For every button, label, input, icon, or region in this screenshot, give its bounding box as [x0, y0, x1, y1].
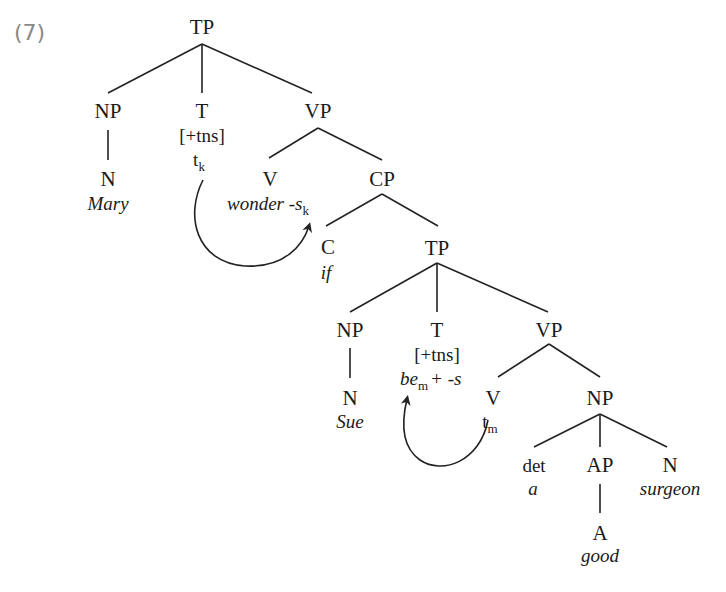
word-a: a [528, 478, 538, 499]
edge-vp2-v [498, 344, 549, 377]
edge-tp2-np [350, 263, 437, 312]
edge-cp-tp [382, 194, 438, 226]
edge-np3-n [600, 414, 667, 447]
example-number: (7) [14, 20, 45, 45]
edge-vp-v [269, 128, 318, 158]
feature-tns-lower: [+tns] [414, 344, 460, 365]
edge-tp-vp [202, 44, 312, 93]
node-det: det [522, 455, 546, 476]
trace-tk: tk [193, 149, 205, 174]
node-tp-lower: TP [425, 236, 450, 260]
node-cp: CP [369, 167, 395, 191]
word-be-s: bem+ -s [400, 368, 461, 393]
node-np-object: NP [587, 386, 614, 410]
node-a: A [592, 521, 608, 545]
word-wonder-s: wonder -sk [227, 193, 309, 218]
edge-tp2-vp [437, 263, 548, 312]
node-tp-root: TP [190, 15, 215, 39]
node-vp-upper: VP [305, 99, 332, 123]
node-np-subject: NP [95, 99, 122, 123]
word-if: if [321, 262, 334, 283]
node-n-surgeon: N [662, 453, 677, 477]
word-mary: Mary [86, 193, 129, 214]
node-v-lower: V [485, 386, 500, 410]
edge-np3-det [534, 414, 600, 447]
node-c: C [321, 235, 335, 259]
node-t-lower: T [431, 318, 444, 342]
feature-tns-upper: [+tns] [179, 125, 225, 146]
node-ap: AP [587, 453, 614, 477]
syntax-tree-diagram: (7) TP NP N Mary T [+tns] tk VP V wonder… [0, 0, 726, 592]
node-n-sue: N [342, 386, 357, 410]
node-np-sue: NP [337, 318, 364, 342]
movement-arrow-m [404, 399, 488, 466]
edge-cp-c [326, 194, 382, 226]
word-good: good [581, 545, 620, 566]
edge-tp-np [108, 44, 202, 93]
node-vp-lower: VP [536, 318, 563, 342]
node-t-upper: T [196, 99, 209, 123]
word-sue: Sue [336, 411, 363, 432]
node-n-mary: N [100, 167, 115, 191]
edge-vp2-np [549, 344, 600, 377]
edge-vp-cp [318, 128, 382, 160]
node-v-upper: V [262, 167, 277, 191]
word-surgeon: surgeon [640, 478, 701, 499]
